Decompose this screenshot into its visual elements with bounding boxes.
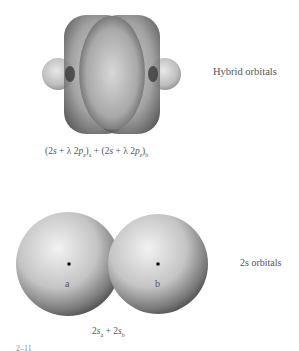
atom-b-label: b [155, 278, 160, 289]
hybrid-orbitals-label: Hybrid orbitals [213, 66, 277, 77]
s-orbital-shape [16, 212, 208, 316]
s-orbitals-label: 2s orbitals [240, 257, 281, 268]
atom-a-label: a [65, 278, 69, 289]
overlap-ellipse [79, 16, 145, 130]
hybrid-formula: (2s + λ 2pz)a + (2s + λ 2pz)b [45, 146, 148, 158]
figure-number-fragment: 2–11 [16, 344, 32, 351]
s-formula: 2sa + 2sb [92, 326, 125, 338]
orbital-diagram [0, 0, 299, 351]
nucleus-b [156, 262, 160, 266]
hybrid-orbital-shape [42, 15, 181, 134]
nucleus-a [67, 262, 71, 266]
